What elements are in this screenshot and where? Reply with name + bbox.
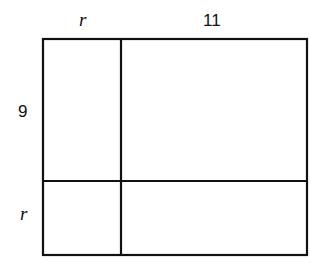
label-left-r: r xyxy=(20,204,27,223)
area-model-diagram xyxy=(0,0,311,265)
outer-rectangle xyxy=(43,39,307,255)
label-top-r: r xyxy=(79,10,86,29)
label-top-11: 11 xyxy=(203,12,221,29)
label-left-9: 9 xyxy=(18,103,27,120)
